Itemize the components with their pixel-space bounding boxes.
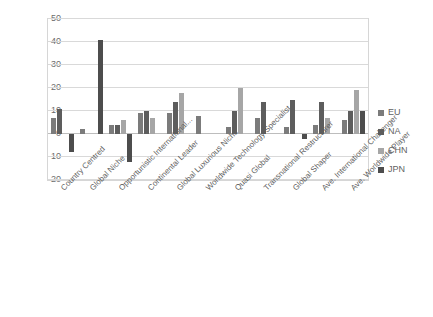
bar-chart: 50403020100-10-20 Country CentredGlobal …: [0, 0, 433, 317]
legend-label: JPN: [388, 165, 405, 174]
legend-swatch-icon: [378, 110, 384, 116]
legend-item-na[interactable]: NA: [378, 122, 430, 141]
legend-item-chn[interactable]: CHN: [378, 141, 430, 160]
legend-label: NA: [388, 127, 401, 136]
legend: EUNACHNJPN: [378, 103, 430, 179]
x-category-label: Continental Leader: [146, 138, 200, 192]
legend-item-jpn[interactable]: JPN: [378, 160, 430, 179]
x-axis-category-labels: Country CentredGlobal NicheOpportunistic…: [0, 0, 433, 317]
legend-label: EU: [388, 108, 401, 117]
legend-swatch-icon: [378, 148, 384, 154]
legend-label: CHN: [388, 146, 408, 155]
legend-swatch-icon: [378, 167, 384, 173]
legend-item-eu[interactable]: EU: [378, 103, 430, 122]
legend-swatch-icon: [378, 129, 384, 135]
